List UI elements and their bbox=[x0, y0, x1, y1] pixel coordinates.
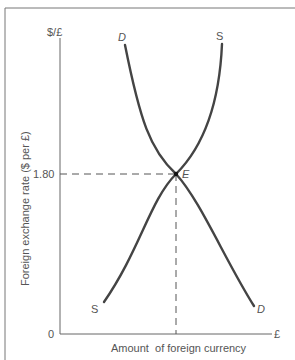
supply-bottom-label: S bbox=[91, 303, 98, 315]
supply-top-label: S bbox=[216, 30, 223, 42]
equilibrium-point bbox=[174, 172, 178, 176]
demand-bottom-label: D bbox=[257, 303, 265, 315]
y-axis-title: Foreign exchange rate ($ per £) bbox=[19, 131, 31, 286]
supply-curve bbox=[104, 44, 222, 302]
supply-demand-diagram: $/£ £ 0 1.80 E D S S D Foreign exchange … bbox=[0, 0, 295, 360]
equilibrium-label: E bbox=[182, 168, 190, 180]
rate-tick-label: 1.80 bbox=[33, 168, 54, 180]
y-unit-label: $/£ bbox=[47, 26, 62, 38]
origin-label: 0 bbox=[48, 328, 54, 340]
x-unit-label: £ bbox=[274, 328, 280, 340]
demand-top-label: D bbox=[118, 31, 126, 43]
demand-curve bbox=[125, 45, 254, 306]
x-axis-title: Amount of foreign currency bbox=[111, 342, 247, 354]
